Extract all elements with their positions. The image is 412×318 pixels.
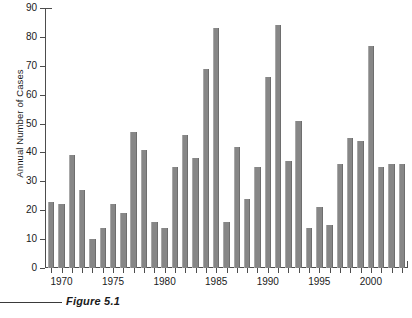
bar xyxy=(58,204,64,268)
bar xyxy=(388,164,394,268)
x-tick xyxy=(330,268,331,273)
bar xyxy=(399,164,405,268)
y-tick-label: 60 xyxy=(26,90,37,100)
x-tick xyxy=(340,268,341,273)
x-tick xyxy=(216,268,217,273)
plot-area: 0102030405060708090 19701975198019851990… xyxy=(45,8,408,268)
x-tick xyxy=(257,268,258,273)
y-tick-label: 40 xyxy=(26,147,37,157)
x-tick xyxy=(103,268,104,273)
x-tick xyxy=(113,268,114,273)
x-tick xyxy=(278,268,279,273)
x-tick xyxy=(392,268,393,273)
bar xyxy=(295,121,301,268)
bar xyxy=(316,207,322,268)
x-tick-label: 1995 xyxy=(308,277,330,287)
x-tick xyxy=(72,268,73,273)
x-tick xyxy=(92,268,93,273)
x-tick xyxy=(361,268,362,273)
y-tick-label: 80 xyxy=(26,32,37,42)
bar xyxy=(120,213,126,268)
y-tick xyxy=(40,124,45,125)
y-tick-label: 90 xyxy=(26,3,37,13)
bar xyxy=(141,150,147,268)
x-tick xyxy=(123,268,124,273)
bar xyxy=(110,204,116,268)
bar xyxy=(182,135,188,268)
bar xyxy=(48,202,54,268)
y-tick-label: 50 xyxy=(26,119,37,129)
x-tick xyxy=(206,268,207,273)
bar xyxy=(223,222,229,268)
x-tick xyxy=(309,268,310,273)
bar xyxy=(275,25,281,268)
y-tick xyxy=(40,210,45,211)
y-axis-title: Annual Number of Cases xyxy=(14,49,25,199)
bar xyxy=(254,167,260,268)
x-tick xyxy=(247,268,248,273)
bar xyxy=(357,141,363,268)
x-tick xyxy=(227,268,228,273)
x-tick xyxy=(134,268,135,273)
y-axis-top-cap xyxy=(45,8,52,9)
x-tick xyxy=(381,268,382,273)
y-tick xyxy=(40,181,45,182)
bar xyxy=(89,239,95,268)
x-tick-label: 1985 xyxy=(205,277,227,287)
x-tick xyxy=(82,268,83,273)
y-tick-label: 70 xyxy=(26,61,37,71)
x-tick xyxy=(144,268,145,273)
figure-caption: Figure 5.1 xyxy=(66,295,120,307)
figure-container: Annual Number of Cases 01020304050607080… xyxy=(0,0,412,318)
y-tick xyxy=(40,95,45,96)
x-tick xyxy=(371,268,372,273)
y-tick xyxy=(40,239,45,240)
bar xyxy=(234,147,240,268)
y-tick xyxy=(40,37,45,38)
x-tick xyxy=(268,268,269,273)
x-tick-label: 1975 xyxy=(102,277,124,287)
x-tick xyxy=(51,268,52,273)
bar xyxy=(337,164,343,268)
x-tick xyxy=(185,268,186,273)
x-tick xyxy=(288,268,289,273)
bar xyxy=(347,138,353,268)
x-axis-right-cap xyxy=(407,261,408,268)
x-tick xyxy=(165,268,166,273)
bar xyxy=(69,155,75,268)
y-tick xyxy=(40,66,45,67)
x-tick xyxy=(62,268,63,273)
caption-rule xyxy=(0,302,62,303)
bar xyxy=(151,222,157,268)
bar xyxy=(285,161,291,268)
bar xyxy=(213,28,219,268)
x-tick-label: 1990 xyxy=(257,277,279,287)
x-tick xyxy=(402,268,403,273)
bar xyxy=(161,228,167,268)
y-axis-line xyxy=(45,8,46,268)
y-tick xyxy=(40,268,45,269)
y-tick-label: 30 xyxy=(26,176,37,186)
bar xyxy=(79,190,85,268)
x-tick xyxy=(237,268,238,273)
bar xyxy=(368,46,374,268)
bar xyxy=(130,132,136,268)
x-tick-label: 1980 xyxy=(154,277,176,287)
x-tick xyxy=(154,268,155,273)
bar xyxy=(172,167,178,268)
y-tick xyxy=(40,8,45,9)
bar xyxy=(326,225,332,268)
bar xyxy=(265,77,271,268)
bar xyxy=(244,199,250,268)
bar xyxy=(203,69,209,268)
bar xyxy=(100,228,106,268)
x-tick xyxy=(175,268,176,273)
bar xyxy=(378,167,384,268)
bar xyxy=(306,228,312,268)
x-tick xyxy=(299,268,300,273)
y-tick-label: 0 xyxy=(31,263,37,273)
x-tick xyxy=(350,268,351,273)
x-tick xyxy=(319,268,320,273)
y-tick xyxy=(40,152,45,153)
y-tick-label: 20 xyxy=(26,205,37,215)
